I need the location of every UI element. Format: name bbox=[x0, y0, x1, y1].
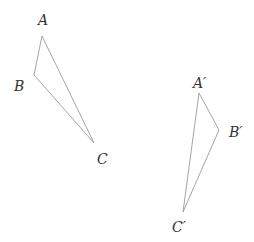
triangle-abc bbox=[34, 36, 94, 143]
label-c: C bbox=[97, 151, 108, 167]
triangle-abc-prime bbox=[183, 93, 219, 212]
label-b-prime: B′ bbox=[228, 124, 243, 140]
label-a-prime: A′ bbox=[191, 75, 207, 91]
label-a: A bbox=[36, 12, 48, 28]
label-c-prime: C′ bbox=[172, 219, 187, 235]
label-b: B bbox=[13, 78, 24, 94]
diagram-canvas: A B C A′ B′ C′ bbox=[0, 0, 254, 242]
